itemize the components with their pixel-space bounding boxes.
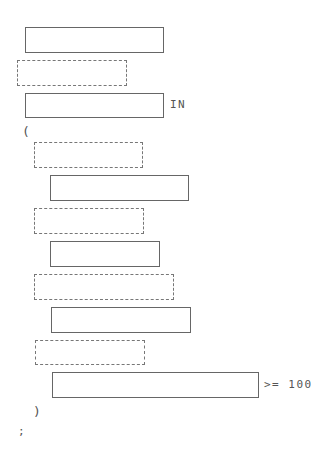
solid-slot-9[interactable]	[51, 307, 191, 333]
statement-terminator: ;	[18, 425, 25, 439]
dashed-slot-4[interactable]	[34, 142, 143, 168]
solid-slot-3[interactable]	[25, 93, 164, 118]
solid-slot-5[interactable]	[50, 175, 189, 201]
solid-slot-7[interactable]	[50, 241, 160, 267]
open-paren: (	[22, 125, 30, 139]
close-paren: )	[33, 405, 41, 419]
comparison-operator: >= 100	[264, 379, 313, 391]
dashed-slot-10[interactable]	[35, 340, 145, 365]
in-keyword: IN	[170, 99, 186, 111]
solid-slot-11[interactable]	[52, 372, 259, 398]
dashed-slot-2[interactable]	[17, 60, 127, 86]
dashed-slot-8[interactable]	[34, 274, 174, 300]
solid-slot-1[interactable]	[25, 27, 164, 53]
dashed-slot-6[interactable]	[34, 208, 144, 234]
